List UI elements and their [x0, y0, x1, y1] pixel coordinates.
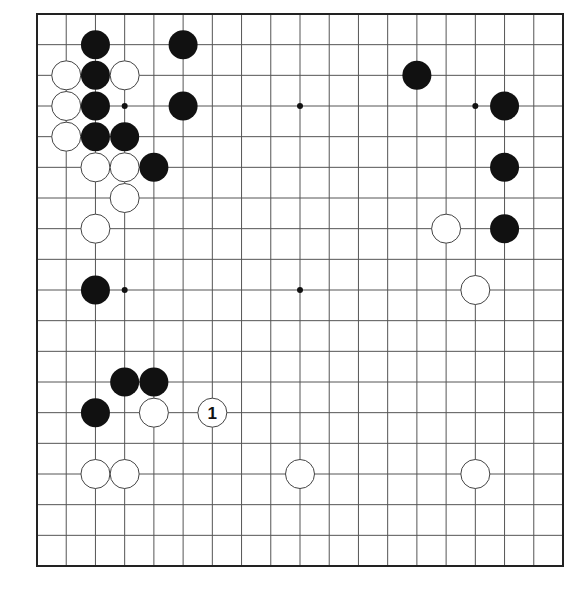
white-stone: 1	[198, 398, 227, 427]
black-stone	[490, 92, 519, 121]
star-point	[122, 103, 128, 109]
white-stone	[110, 460, 139, 489]
white-stone	[139, 398, 168, 427]
star-point	[297, 287, 303, 293]
black-stone	[402, 61, 431, 90]
black-stone	[490, 153, 519, 182]
black-stone	[81, 122, 110, 151]
black-stone	[169, 30, 198, 59]
white-stone	[81, 214, 110, 243]
star-point	[122, 287, 128, 293]
white-stone	[110, 184, 139, 213]
star-point	[297, 103, 303, 109]
white-stone	[432, 214, 461, 243]
black-stone	[110, 368, 139, 397]
black-stone	[81, 276, 110, 305]
white-stone	[81, 153, 110, 182]
white-stone	[110, 153, 139, 182]
white-stone	[52, 122, 81, 151]
black-stone	[169, 92, 198, 121]
white-stone	[461, 276, 490, 305]
black-stone	[139, 368, 168, 397]
black-stone	[81, 61, 110, 90]
white-stone	[81, 460, 110, 489]
black-stone	[81, 92, 110, 121]
white-stone	[286, 460, 315, 489]
white-stone	[52, 92, 81, 121]
black-stone	[81, 398, 110, 427]
black-stone	[110, 122, 139, 151]
move-number-label: 1	[208, 404, 217, 423]
star-point	[472, 103, 478, 109]
black-stone	[139, 153, 168, 182]
white-stone	[461, 460, 490, 489]
white-stone	[110, 61, 139, 90]
go-board: 1	[0, 0, 583, 598]
black-stone	[490, 214, 519, 243]
black-stone	[81, 30, 110, 59]
white-stone	[52, 61, 81, 90]
